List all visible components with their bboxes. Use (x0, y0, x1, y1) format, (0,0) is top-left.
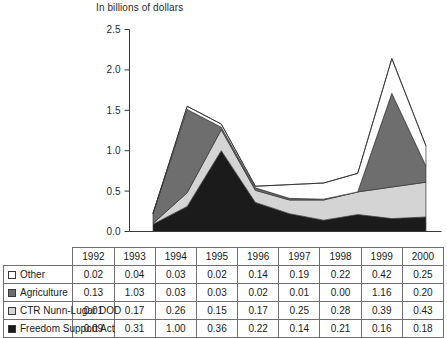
table-cell: 0.20 (402, 284, 443, 302)
table-cell: 0.25 (402, 266, 443, 284)
table-header: 199219931994199519961997199819992000 (4, 248, 444, 266)
y-tick-label-1.5: 1.5 (107, 105, 121, 116)
table-year-header-1993: 1993 (114, 248, 155, 266)
stacked-area-series-group (153, 59, 426, 232)
table-cell: 0.18 (402, 320, 443, 338)
table-cell: 1.00 (155, 320, 196, 338)
table-cell: 0.39 (361, 302, 402, 320)
table-year-header-1992: 1992 (73, 248, 114, 266)
table-cell: 1.03 (114, 284, 155, 302)
table-cell: 0.14 (238, 266, 279, 284)
table-cell: 0.22 (238, 320, 279, 338)
table-cell: 0.43 (402, 302, 443, 320)
table-cell: 0.31 (114, 320, 155, 338)
table-cell: 0.14 (279, 320, 320, 338)
legend-swatch-lightgray-icon (8, 307, 16, 315)
series-legend-label-3: Freedom Support Act (4, 320, 73, 338)
table-year-header-1999: 1999 (361, 248, 402, 266)
chart-svg: 0.00.51.01.52.02.5 (0, 14, 447, 246)
table-year-header-2000: 2000 (402, 248, 443, 266)
table-cell: 0.36 (196, 320, 237, 338)
table-cell: 0.02 (196, 266, 237, 284)
legend-label-text: Agriculture (20, 287, 68, 298)
table-year-header-1997: 1997 (279, 248, 320, 266)
y-tick-label-2.0: 2.0 (107, 64, 121, 75)
table-cell: 0.00 (320, 284, 361, 302)
table-cell: 0.02 (238, 284, 279, 302)
table-year-header-1996: 1996 (238, 248, 279, 266)
y-axis-tick-labels: 0.00.51.01.52.02.5 (107, 24, 121, 237)
legend-label-text: Other (20, 269, 45, 280)
table-header-row: 199219931994199519961997199819992000 (4, 248, 444, 266)
table-cell: 0.02 (73, 266, 114, 284)
table-cell: 0.03 (155, 284, 196, 302)
table-row: Other0.020.040.030.020.140.190.220.420.2… (4, 266, 444, 284)
y-tick-label-0.0: 0.0 (107, 226, 121, 237)
table-body: Other0.020.040.030.020.140.190.220.420.2… (4, 266, 444, 338)
legend-label-text: CTR Nunn-Lugar DOD (20, 305, 121, 316)
table-cell: 0.26 (155, 302, 196, 320)
table-cell: 0.42 (361, 266, 402, 284)
table-corner-cell (4, 248, 73, 266)
table-cell: 0.15 (196, 302, 237, 320)
series-legend-label-0: Other (4, 266, 73, 284)
chart-axis-unit-title: In billions of dollars (96, 2, 183, 13)
y-tick-label-2.5: 2.5 (107, 24, 121, 35)
legend-swatch-black-icon (8, 325, 16, 333)
table-cell: 0.25 (279, 302, 320, 320)
table-year-header-1995: 1995 (196, 248, 237, 266)
legend-swatch-darkgray-icon (8, 289, 16, 297)
table-row: Freedom Support Act0.090.311.000.360.220… (4, 320, 444, 338)
table-row: CTR Nunn-Lugar DOD0.010.170.260.150.170.… (4, 302, 444, 320)
table-row: Agriculture0.131.030.030.030.020.010.001… (4, 284, 444, 302)
table-cell: 0.03 (196, 284, 237, 302)
table-cell: 0.04 (114, 266, 155, 284)
series-legend-label-2: CTR Nunn-Lugar DOD (4, 302, 73, 320)
table-cell: 0.17 (238, 302, 279, 320)
table-year-header-1994: 1994 (155, 248, 196, 266)
table-cell: 0.03 (155, 266, 196, 284)
table-cell: 1.16 (361, 284, 402, 302)
legend-swatch-white-icon (8, 271, 16, 279)
table-cell: 0.22 (320, 266, 361, 284)
chart-plot-area: 0.00.51.01.52.02.5 (0, 14, 447, 246)
table-year-header-1998: 1998 (320, 248, 361, 266)
y-tick-label-1.0: 1.0 (107, 145, 121, 156)
table-cell: 0.16 (361, 320, 402, 338)
series-legend-label-1: Agriculture (4, 284, 73, 302)
chart-data-table: 199219931994199519961997199819992000 Oth… (3, 247, 444, 338)
table-cell: 0.28 (320, 302, 361, 320)
table-cell: 0.21 (320, 320, 361, 338)
y-tick-label-0.5: 0.5 (107, 186, 121, 197)
table-cell: 0.19 (279, 266, 320, 284)
table-cell: 0.01 (279, 284, 320, 302)
table-cell: 0.13 (73, 284, 114, 302)
